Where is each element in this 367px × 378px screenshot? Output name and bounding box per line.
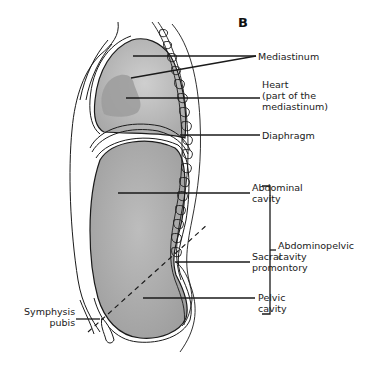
panel-letter: B (238, 15, 248, 30)
abdominopelvic-cavity (90, 141, 187, 338)
label-symphysis-pubis: Symphysis pubis (24, 306, 75, 328)
label-diaphragm: Diaphragm (262, 130, 315, 141)
label-mediastinum: Mediastinum (258, 51, 319, 62)
label-pelvic-cavity: Pelvic cavity (258, 292, 287, 314)
label-heart: Heart (part of the mediastinum) (262, 79, 328, 112)
label-abdominopelvic-cavity: Abdominopelvic cavity (278, 240, 354, 262)
label-abdominal-cavity: Abdominal cavity (252, 182, 303, 204)
